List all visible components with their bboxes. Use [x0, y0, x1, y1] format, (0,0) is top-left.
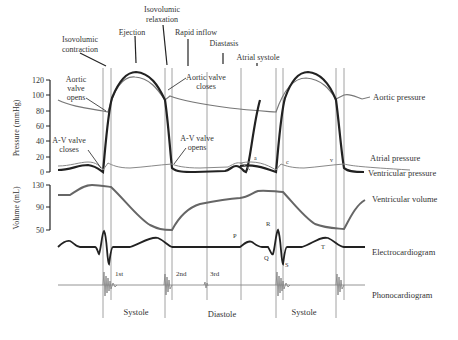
wave-v-label: v [330, 157, 333, 163]
pressure-tick-100: 100 [32, 91, 44, 100]
label-electrocardiogram: Electrocardiogram [372, 247, 436, 257]
heart-sound-labels: 1st 2nd 3rd [115, 270, 220, 278]
annot-aortic-valve-opens-3: opens [67, 93, 86, 102]
annot-av-valve-closes-2: closes [59, 145, 79, 154]
pressure-tick-20: 20 [36, 153, 44, 162]
ventricular-pressure-trace-cycle2 [240, 72, 364, 172]
annot-aortic-valve-opens-1: Aortic [66, 75, 87, 84]
annot-av-valve-closes-1: A-V valve [52, 136, 86, 145]
volume-tick-50: 50 [36, 226, 44, 235]
ecg-s-label: S [285, 261, 289, 268]
volume-axis: 130 90 50 Volume (mL) [12, 181, 50, 235]
label-diastasis: Diastasis [210, 39, 239, 48]
heart-sound-2nd: 2nd [176, 270, 187, 278]
ecg-trace [58, 230, 365, 264]
ecg-p-label: P [233, 232, 237, 239]
label-systole-1: Systole [123, 307, 148, 317]
volume-tick-130: 130 [32, 181, 44, 190]
ecg-t-label: T [321, 243, 325, 250]
pressure-annotations: Aortic valve opens A-V valve closes Aort… [52, 73, 333, 168]
annot-aortic-valve-closes-2: closes [196, 82, 216, 91]
phase-labels-bottom: Systole Diastole Systole [123, 307, 316, 319]
phase-divider-lines [103, 68, 344, 318]
wiggers-diagram: Isovolumic contraction Ejection Isovolum… [0, 0, 458, 340]
ventricular-pressure-trace [58, 72, 260, 172]
label-ventricular-pressure: Ventricular pressure [368, 168, 436, 178]
label-diastole: Diastole [208, 309, 237, 319]
label-ventricular-volume: Ventricular volume [372, 194, 438, 204]
volume-tick-90: 90 [36, 203, 44, 212]
annot-av-valve-opens-1: A-V valve [180, 134, 214, 143]
pressure-axis-label: Pressure (mmHg) [12, 99, 21, 156]
ventricular-volume-trace [58, 185, 365, 230]
label-isovolumic-relaxation-2: relaxation [146, 15, 178, 24]
heart-sound-3rd: 3rd [210, 270, 220, 278]
diagram-canvas: Isovolumic contraction Ejection Isovolum… [0, 0, 458, 340]
label-isovolumic-contraction-2: contraction [62, 45, 98, 54]
label-isovolumic-contraction-1: Isovolumic [62, 35, 98, 44]
wave-c-label: c [286, 159, 289, 165]
heart-sound-1st: 1st [115, 270, 123, 278]
annot-aortic-valve-opens-2: valve [67, 84, 85, 93]
label-rapid-inflow: Rapid inflow [175, 28, 217, 37]
wave-a-label: a [254, 155, 257, 161]
pressure-tick-60: 60 [36, 122, 44, 131]
label-systole-2: Systole [291, 307, 316, 317]
ecg-q-label: Q [264, 254, 269, 261]
label-atrial-pressure: Atrial pressure [370, 153, 421, 163]
pressure-tick-80: 80 [36, 107, 44, 116]
label-phonocardiogram: Phonocardiogram [372, 290, 433, 300]
phase-labels-top: Isovolumic contraction Ejection Isovolum… [62, 5, 280, 62]
label-atrial-systole: Atrial systole [237, 53, 280, 62]
ecg-r-label: R [266, 220, 271, 227]
pressure-tick-40: 40 [36, 137, 44, 146]
trace-labels: Aortic pressure Atrial pressure Ventricu… [362, 92, 438, 300]
annot-av-valve-opens-2: opens [188, 143, 207, 152]
pressure-axis: 120 100 80 60 40 20 0 Pressure (mmHg) [12, 76, 50, 177]
label-isovolumic-relaxation-1: Isovolumic [144, 5, 180, 14]
label-ejection: Ejection [119, 28, 146, 37]
label-aortic-pressure: Aortic pressure [373, 92, 425, 102]
pressure-tick-120: 120 [32, 76, 44, 85]
volume-axis-label: Volume (mL) [12, 186, 21, 230]
annot-aortic-valve-closes-1: Aortic valve [186, 73, 226, 82]
pressure-tick-0: 0 [40, 168, 44, 177]
